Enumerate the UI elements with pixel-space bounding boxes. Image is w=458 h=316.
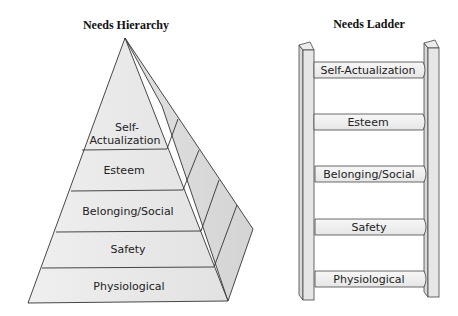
pyramid-level-belonging-social: Belonging/Social bbox=[82, 205, 173, 218]
needs-hierarchy-pyramid: Needs Hierarchy Self- Actualization Este… bbox=[28, 18, 253, 303]
needs-ladder: Needs Ladder Self-Actualization Esteem B… bbox=[299, 17, 439, 300]
diagram-canvas: Needs Hierarchy Self- Actualization Este… bbox=[0, 0, 458, 316]
pyramid-title: Needs Hierarchy bbox=[83, 18, 169, 32]
ladder-rung-belonging-social: Belonging/Social bbox=[315, 166, 426, 182]
pyramid-level-self-actualization-line1: Self- bbox=[115, 121, 139, 134]
pyramid-level-self-actualization-line2: Actualization bbox=[89, 134, 160, 147]
ladder-rung-label: Physiological bbox=[333, 273, 404, 286]
pyramid-level-physiological: Physiological bbox=[93, 280, 164, 293]
pyramid-level-safety: Safety bbox=[110, 243, 146, 256]
ladder-rung-label: Esteem bbox=[347, 116, 388, 129]
ladder-rung-safety: Safety bbox=[315, 219, 426, 235]
ladder-rung-label: Safety bbox=[351, 221, 387, 234]
pyramid-level-esteem: Esteem bbox=[103, 164, 144, 177]
ladder-title: Needs Ladder bbox=[333, 17, 405, 31]
ladder-rung-label: Belonging/Social bbox=[323, 168, 414, 181]
ladder-rung-esteem: Esteem bbox=[314, 114, 425, 130]
ladder-rung-self-actualization: Self-Actualization bbox=[314, 62, 425, 78]
ladder-rung-label: Self-Actualization bbox=[321, 64, 416, 77]
ladder-right-rail bbox=[424, 40, 439, 297]
ladder-left-rail bbox=[299, 42, 314, 300]
ladder-rung-physiological: Physiological bbox=[315, 271, 426, 287]
